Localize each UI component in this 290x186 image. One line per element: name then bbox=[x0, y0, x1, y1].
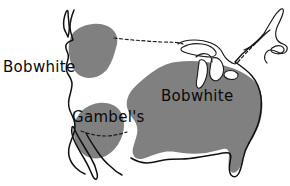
map-label-gambels: Gambel's bbox=[72, 110, 145, 125]
northeast-maritimes-outline bbox=[263, 9, 287, 63]
quail-range-map-figure: Bobwhite Bobwhite Gambel's bbox=[0, 0, 290, 186]
us-canada-border-east-line bbox=[238, 33, 265, 62]
map-label-bobwhite-northwest: Bobwhite bbox=[3, 60, 75, 75]
us-canada-border-line bbox=[114, 38, 183, 44]
range-area-bobwhite-northwest bbox=[69, 24, 118, 78]
pacific-coast-outline bbox=[64, 11, 70, 38]
lake-ontario-outline bbox=[224, 71, 238, 80]
map-label-bobwhite-east: Bobwhite bbox=[161, 89, 233, 104]
range-area-bobwhite-east bbox=[127, 61, 263, 173]
range-map-graphic bbox=[0, 0, 290, 186]
st-lawrence-river-outline bbox=[244, 30, 270, 50]
